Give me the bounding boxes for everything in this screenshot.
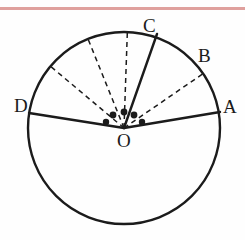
ellipsis-dot-4 (131, 112, 138, 119)
circle-diagram (0, 0, 245, 240)
dashed-radius-1 (124, 74, 203, 128)
radius-oa (124, 112, 220, 128)
radius-oc (124, 34, 157, 128)
ellipsis-dot-1 (103, 119, 109, 125)
point-label-a: A (223, 97, 237, 116)
point-label-b: B (198, 46, 211, 65)
point-label-d: D (14, 96, 28, 115)
center-label-o: O (117, 131, 131, 150)
ellipsis-dot-3 (121, 109, 128, 116)
ellipsis-dot-2 (110, 112, 117, 119)
dashed-radius-3 (88, 39, 124, 128)
figure-root: D C B A O (0, 0, 245, 240)
point-label-c: C (143, 16, 156, 35)
ellipsis-dot-5 (139, 119, 145, 125)
